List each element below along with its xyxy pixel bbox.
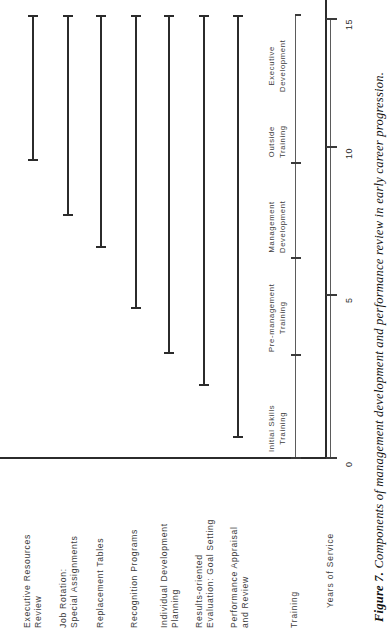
category-label-executive-resources-review: Executive Resources Review — [22, 534, 44, 628]
phase-line-1: Outside — [267, 126, 276, 157]
phase-line-2: Development — [278, 201, 287, 253]
year-tick-5 — [326, 294, 337, 296]
phase-line-2: Training — [278, 125, 287, 158]
cat-line-1: Job Rotation: — [58, 568, 68, 628]
training-phase-label-management-development: Management Development — [266, 201, 288, 253]
figure-caption-prefix: Figure 7. — [372, 572, 386, 622]
plot-area: Initial Skills Training Pre-management T… — [0, 0, 388, 634]
bar-recognition-programs — [135, 15, 137, 309]
phase-line-1: Initial Skills — [267, 405, 276, 452]
category-label-replacement-tables: Replacement Tables — [95, 538, 106, 628]
figure-caption-text: Components of management development and… — [372, 72, 386, 569]
training-phase-label-executive-development: Executive Development — [266, 40, 288, 92]
cat-line-1: Recognition Programs — [129, 529, 139, 628]
category-label-results-oriented-evaluation-goal-setting: Results-oriented Evaluation: Goal Settin… — [194, 519, 216, 628]
figure-root: Initial Skills Training Pre-management T… — [0, 0, 388, 634]
category-axis-line — [325, 0, 327, 458]
cat-line-2: Planning — [170, 589, 180, 628]
cat-line-1: Performance Appraisal — [229, 526, 239, 628]
training-phase-label-initial-skills-training: Initial Skills Training — [266, 405, 288, 452]
bar-performance-appraisal-and-review — [237, 15, 239, 438]
bar-cap-top — [28, 15, 39, 17]
bar-cap-bottom — [63, 214, 74, 216]
bar-individual-development-planning — [168, 15, 170, 354]
cat-line-2: Evaluation: Goal Setting — [205, 519, 215, 628]
category-label-performance-appraisal-and-review: Performance Appraisal and Review — [229, 526, 251, 628]
bar-job-rotation-special-assignments — [67, 15, 69, 216]
bar-replacement-tables — [100, 15, 102, 248]
year-tick-label-5: 5 — [344, 298, 355, 303]
cat-line-2: and Review — [240, 576, 250, 628]
training-axis-line — [295, 14, 296, 458]
cat-line-1: Results-oriented — [194, 554, 204, 628]
figure-caption: Figure 7. Components of management devel… — [372, 72, 387, 622]
bar-cap-bottom — [199, 384, 210, 386]
bar-cap-top — [131, 15, 142, 17]
category-label-individual-development-planning: Individual Development Planning — [159, 523, 181, 628]
cat-line-2: Review — [33, 596, 43, 628]
training-tick-0 — [291, 457, 301, 459]
bar-cap-bottom — [164, 352, 175, 354]
category-label-recognition-programs: Recognition Programs — [129, 529, 140, 628]
cat-line-1: Individual Development — [159, 523, 169, 628]
training-tick-3-5 — [291, 354, 301, 356]
training-tick-6-8 — [291, 257, 301, 259]
phase-line-1: Management — [267, 201, 276, 252]
bar-cap-top — [96, 15, 107, 17]
bar-cap-bottom — [28, 159, 39, 161]
bar-cap-bottom — [233, 436, 244, 438]
phase-line-1: Pre-management — [267, 284, 276, 352]
bar-cap-top — [199, 15, 210, 17]
training-phase-label-outside-training: Outside Training — [266, 125, 288, 158]
year-tick-10 — [326, 146, 337, 148]
training-axis-title: Training — [289, 591, 300, 628]
bar-cap-bottom — [96, 246, 107, 248]
phase-line-2: Development — [278, 40, 287, 92]
bar-executive-resources-review — [32, 15, 34, 161]
year-tick-15 — [326, 18, 337, 20]
training-phase-label-pre-management-training: Pre-management Training — [266, 284, 288, 352]
bar-cap-top — [164, 15, 175, 17]
bar-results-oriented-evaluation-goal-setting — [203, 15, 205, 386]
phase-line-1: Executive — [267, 46, 276, 85]
bar-cap-bottom — [131, 307, 142, 309]
years-of-service-axis-line — [330, 18, 331, 458]
bar-cap-top — [233, 15, 244, 17]
training-axis-end-cap — [295, 14, 301, 16]
category-axis-baseline — [0, 457, 326, 459]
cat-line-1: Replacement Tables — [95, 538, 105, 628]
cat-line-1: Executive Resources — [22, 534, 32, 628]
phase-line-2: Training — [278, 412, 287, 445]
cat-line-2: Special Assignments — [69, 535, 79, 628]
category-label-job-rotation-special-assignments: Job Rotation: Special Assignments — [58, 535, 80, 628]
phase-line-2: Training — [278, 301, 287, 334]
year-tick-0 — [326, 457, 337, 459]
year-tick-label-0: 0 — [344, 462, 355, 467]
bar-cap-top — [63, 15, 74, 17]
year-tick-label-10: 10 — [344, 148, 355, 159]
years-of-service-axis-title: Years of Service — [325, 533, 336, 608]
training-tick-10 — [291, 162, 301, 164]
year-tick-label-15: 15 — [344, 19, 355, 30]
